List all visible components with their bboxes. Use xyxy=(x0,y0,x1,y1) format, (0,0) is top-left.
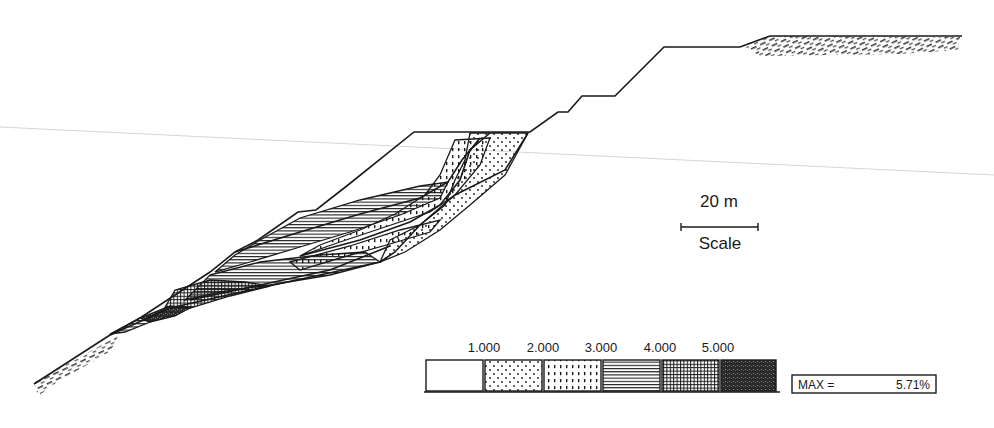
legend-tick-4: 4.000 xyxy=(644,340,677,355)
legend-tick-3: 3.000 xyxy=(585,340,618,355)
legend-swatch-hlines xyxy=(603,360,660,391)
max-label: MAX = xyxy=(798,378,834,392)
legend-tick-5: 5.000 xyxy=(702,340,735,355)
max-value: 5.71% xyxy=(896,378,930,392)
legend: 1.000 2.000 3.000 4.000 5.000 MAX = 5.71… xyxy=(424,340,936,393)
slope-diagram: 20 m Scale 1.000 2.000 3.000 4.000 5.000… xyxy=(0,0,994,428)
legend-swatch-dots xyxy=(485,360,542,391)
ground-hatch-right xyxy=(744,36,960,56)
legend-swatch-vdash xyxy=(544,360,601,391)
scale-caption: Scale xyxy=(699,234,742,253)
legend-tick-2: 2.000 xyxy=(527,340,560,355)
legend-swatch-cross xyxy=(662,360,719,391)
legend-swatch-blank xyxy=(426,360,483,391)
scale-bar: 20 m Scale xyxy=(681,192,758,253)
legend-swatch-dense xyxy=(721,360,776,391)
scale-label: 20 m xyxy=(700,192,738,211)
legend-tick-1: 1.000 xyxy=(468,340,501,355)
ground-hatch-left xyxy=(34,336,118,396)
slope-profile xyxy=(34,36,962,384)
